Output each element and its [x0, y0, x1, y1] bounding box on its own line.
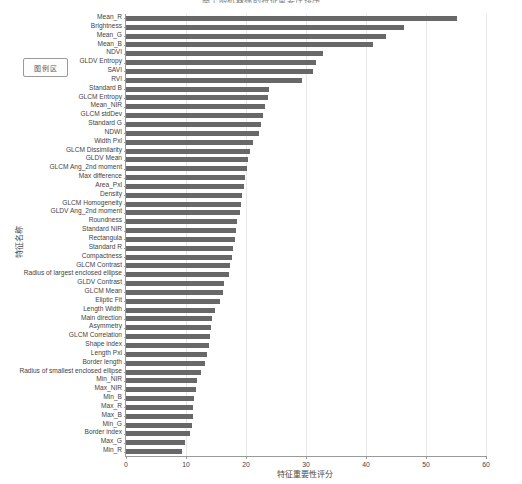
bar[interactable] [126, 60, 316, 65]
bar-row: GLCM Entropy [126, 94, 486, 103]
y-tick-label: Min_NIR [96, 375, 122, 384]
y-tick-label: Standard G [88, 119, 122, 128]
bar[interactable] [126, 219, 237, 224]
bar-row: Roundness [126, 217, 486, 226]
bar[interactable] [126, 193, 242, 198]
y-tick-label: Min_R [103, 446, 122, 455]
y-tick-label: GLCM Homogeneity [62, 199, 122, 208]
bar-row: GLCM Dissimilarity [126, 147, 486, 156]
bar[interactable] [126, 343, 209, 348]
bar[interactable] [126, 16, 457, 21]
bar-row: GLCM Correlation [126, 332, 486, 341]
bar[interactable] [126, 281, 224, 286]
bar-row: GLCM stdDev [126, 111, 486, 120]
bar-row: Border index [126, 429, 486, 438]
y-tick-label: GLDV Entropy [79, 57, 122, 66]
y-tick-label: Mean_R [97, 13, 122, 22]
bar[interactable] [126, 42, 373, 47]
bar[interactable] [126, 255, 232, 260]
bar[interactable] [126, 175, 245, 180]
bar[interactable] [126, 423, 192, 428]
bar-row: NDWI [126, 129, 486, 138]
bar[interactable] [126, 440, 185, 445]
legend-box[interactable]: 图例区 [23, 58, 68, 77]
bar-row: Standard R [126, 244, 486, 253]
bar[interactable] [126, 370, 201, 375]
bar[interactable] [126, 352, 207, 357]
bar[interactable] [126, 122, 261, 127]
x-tick-label: 60 [482, 461, 490, 468]
x-tick-label: 30 [302, 461, 310, 468]
x-tick [366, 456, 367, 459]
bar[interactable] [126, 414, 193, 419]
bar[interactable] [126, 202, 241, 207]
y-tick-label: GLCM Ang_2nd moment [49, 163, 122, 172]
bar-row: GLDV Entropy [126, 58, 486, 67]
bar[interactable] [126, 34, 386, 39]
bar[interactable] [126, 25, 404, 30]
y-tick-label: Min_B [103, 393, 122, 402]
bar-row: Standard B [126, 85, 486, 94]
bar[interactable] [126, 263, 230, 268]
bar[interactable] [126, 78, 302, 83]
bar[interactable] [126, 334, 210, 339]
y-tick-label: GLCM Dissimilarity [66, 146, 122, 155]
bar[interactable] [126, 104, 265, 109]
bar-row: GLCM Contrast [126, 262, 486, 271]
bar-row: Area_Pxl [126, 182, 486, 191]
bar-row: GLCM Mean [126, 288, 486, 297]
bar[interactable] [126, 210, 240, 215]
bar[interactable] [126, 361, 205, 366]
y-tick-label: GLDV Mean [86, 154, 122, 163]
y-tick-label: GLCM Correlation [69, 331, 122, 340]
x-axis-label: 特征重要性评分 [125, 468, 485, 479]
bar[interactable] [126, 396, 194, 401]
x-tick [306, 456, 307, 459]
bar[interactable] [126, 431, 190, 436]
bar[interactable] [126, 87, 269, 92]
bar[interactable] [126, 113, 263, 118]
bar[interactable] [126, 228, 236, 233]
bar[interactable] [126, 449, 182, 454]
bar[interactable] [126, 237, 235, 242]
y-tick-label: Max difference [79, 172, 122, 181]
bar-row: Min_G [126, 421, 486, 430]
bar[interactable] [126, 149, 250, 154]
bar-row: Mean_NIR [126, 102, 486, 111]
bar[interactable] [126, 272, 229, 277]
y-tick-label: GLCM stdDev [81, 110, 122, 119]
bar[interactable] [126, 387, 196, 392]
y-tick-label: Max_NIR [95, 384, 122, 393]
bar[interactable] [126, 95, 268, 100]
bar[interactable] [126, 157, 248, 162]
bar[interactable] [126, 246, 233, 251]
y-tick-label: Border index [85, 428, 122, 437]
bar[interactable] [126, 140, 253, 145]
feature-importance-chart: 基于随机森林的特征重要性排序 特征名称 图例区 Mean_RBrightness… [0, 0, 522, 484]
bar[interactable] [126, 166, 247, 171]
bar-row: NDVI [126, 49, 486, 58]
y-tick-label: Max_B [101, 411, 122, 420]
y-tick-label: Compactness [82, 252, 122, 261]
bar[interactable] [126, 308, 215, 313]
bar-row: RVI [126, 76, 486, 85]
y-tick-label: Rectangula [89, 234, 122, 243]
plot-area: Mean_RBrightnessMean_GMean_BNDVIGLDV Ent… [125, 14, 486, 457]
bar[interactable] [126, 51, 323, 56]
bar[interactable] [126, 405, 193, 410]
bar[interactable] [126, 299, 220, 304]
y-axis-label: 特征名称 [13, 226, 24, 258]
bar-row: Max_G [126, 438, 486, 447]
bar[interactable] [126, 290, 223, 295]
bar-row: Length Pxl [126, 350, 486, 359]
bar[interactable] [126, 131, 259, 136]
bar[interactable] [126, 69, 313, 74]
bar[interactable] [126, 378, 197, 383]
bar[interactable] [126, 325, 211, 330]
x-tick [246, 456, 247, 459]
bar-row: Max difference [126, 173, 486, 182]
bar[interactable] [126, 184, 244, 189]
legend-label: 图例区 [34, 63, 58, 73]
x-tick-label: 10 [182, 461, 190, 468]
bar[interactable] [126, 316, 212, 321]
